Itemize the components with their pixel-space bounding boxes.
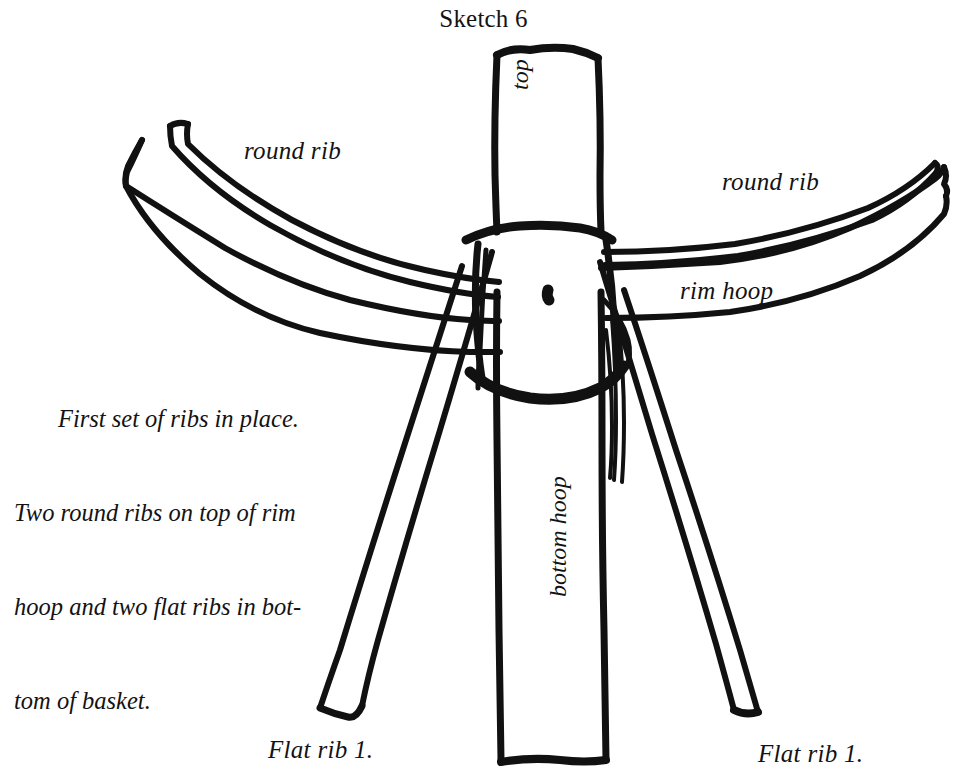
label-top: top	[507, 59, 535, 90]
caption-line: hoop and two flat ribs in bot-	[14, 591, 414, 622]
caption-line: Two round ribs on top of rim	[14, 497, 414, 528]
caption-line: First set of ribs in place.	[14, 403, 414, 434]
page-title: Sketch 6	[0, 4, 967, 33]
label-bottom-hoop: bottom hoop	[545, 476, 573, 597]
label-flat-rib-right: Flat rib 1.	[758, 739, 863, 768]
center-hoop-band	[495, 48, 606, 762]
label-rim-hoop: rim hoop	[680, 276, 773, 305]
caption-line: tom of basket.	[14, 685, 414, 716]
sketch-page: Sketch 6 round rib round rib rim hoop to…	[0, 0, 967, 774]
loose-rib-tails	[606, 318, 624, 482]
label-round-rib-right: round rib	[722, 167, 819, 196]
caption-text: First set of ribs in place. Two round ri…	[14, 340, 414, 774]
label-round-rib-left: round rib	[244, 136, 341, 165]
